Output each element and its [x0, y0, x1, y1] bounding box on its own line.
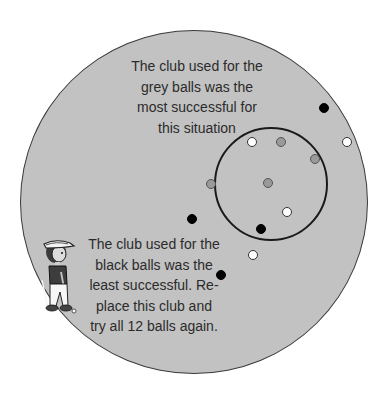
white-ball [342, 137, 352, 147]
white-ball [282, 207, 292, 217]
caption-grey-balls: The club used for the grey balls was the… [127, 56, 267, 138]
grey-ball [206, 179, 216, 189]
black-ball [256, 224, 266, 234]
caption-line: this situation [127, 118, 267, 139]
white-ball [247, 137, 257, 147]
caption-line: try all 12 balls again. [84, 316, 224, 337]
black-ball [319, 103, 329, 113]
white-ball [248, 250, 258, 260]
caption-line: black balls was the [84, 255, 224, 276]
caption-line: most successful for [127, 97, 267, 118]
caption-black-balls: The club used for the black balls was th… [84, 234, 224, 337]
grey-ball [310, 154, 320, 164]
golfer-icon [38, 236, 80, 316]
caption-line: The club used for the [127, 56, 267, 77]
caption-line: place this club and [84, 296, 224, 317]
caption-line: least successful. Re- [84, 275, 224, 296]
grey-ball [276, 137, 286, 147]
caption-line: grey balls was the [127, 77, 267, 98]
black-ball [187, 214, 197, 224]
caption-line: The club used for the [84, 234, 224, 255]
grey-ball [263, 178, 273, 188]
